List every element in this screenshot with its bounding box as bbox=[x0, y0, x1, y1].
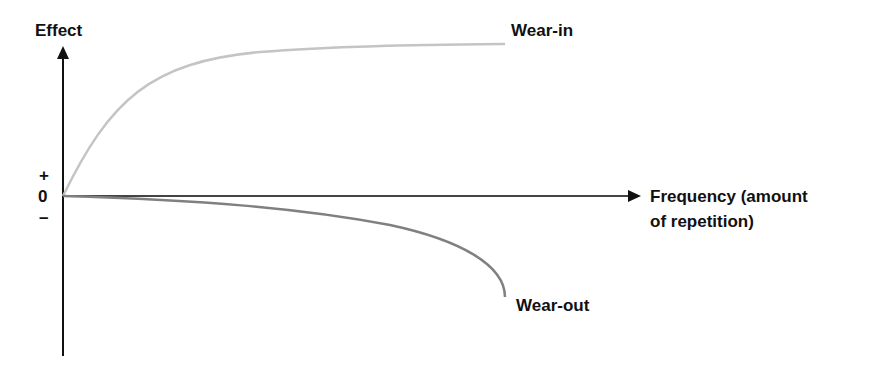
x-axis-arrowhead-icon bbox=[628, 190, 641, 202]
wear-out-curve bbox=[63, 196, 505, 297]
sign-plus: + bbox=[39, 165, 49, 186]
wear-out-label: Wear-out bbox=[516, 295, 589, 316]
y-axis-arrowhead-icon bbox=[57, 46, 69, 59]
y-axis-label: Effect bbox=[35, 20, 82, 41]
sign-zero: 0 bbox=[38, 186, 47, 207]
x-axis-label-line1: Frequency (amount bbox=[650, 186, 808, 207]
wear-in-label: Wear-in bbox=[511, 20, 573, 41]
x-axis-label-line2: of repetition) bbox=[650, 211, 754, 232]
sign-minus: – bbox=[39, 207, 48, 228]
wear-in-curve bbox=[63, 44, 505, 196]
